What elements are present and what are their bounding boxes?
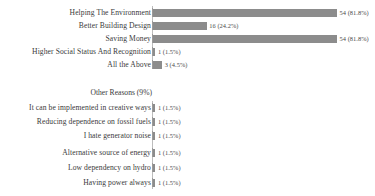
bar-zone: 1 (1.5%) <box>152 176 375 189</box>
table-row: Saving Money 54 (81.8%) <box>0 32 375 45</box>
bar-zone: 1 (1.5%) <box>152 45 375 58</box>
table-row: All the Above 3 (4.5%) <box>0 58 375 71</box>
category-label: Higher Social Status And Recognition <box>0 47 152 56</box>
table-row: Helping The Environment 54 (81.8%) <box>0 6 375 19</box>
category-label: It can be implemented in creative ways <box>0 103 152 112</box>
axis-tick <box>152 117 153 126</box>
bar <box>152 9 337 17</box>
category-label: Saving Money <box>0 34 152 43</box>
bar-zone: 54 (81.8%) <box>152 6 375 19</box>
bar <box>152 22 207 30</box>
bar-zone: 3 (4.5%) <box>152 58 375 71</box>
category-label: Reducing dependence on fossil fuels <box>0 117 152 126</box>
axis-tick <box>152 131 153 140</box>
value-label: 1 (1.5%) <box>155 132 180 140</box>
table-row: Having power always 1 (1.5%) <box>0 176 375 189</box>
axis-tick <box>152 163 153 172</box>
bar-zone: 16 (24.2%) <box>152 19 375 32</box>
value-label: 3 (4.5%) <box>162 61 187 69</box>
bar <box>152 61 162 69</box>
category-label: Alternative source of energy <box>0 148 152 157</box>
bar <box>152 35 337 43</box>
value-label: 1 (1.5%) <box>155 48 180 56</box>
axis-tick <box>152 21 153 30</box>
value-label: 54 (81.8%) <box>337 9 369 17</box>
axis-tick <box>152 8 153 17</box>
section-heading-other-reasons: Other Reasons (9%) <box>0 88 152 97</box>
category-label: Having power always <box>0 178 152 187</box>
value-label: 16 (24.2%) <box>207 22 239 30</box>
value-label: 1 (1.5%) <box>155 149 180 157</box>
axis-tick <box>152 34 153 43</box>
axis-tick <box>152 148 153 157</box>
value-label: 1 (1.5%) <box>155 118 180 126</box>
category-label: Low dependency on hydro <box>0 163 152 172</box>
bar-zone: 1 (1.5%) <box>152 101 375 114</box>
category-label: All the Above <box>0 60 152 69</box>
bar-chart: Helping The Environment 54 (81.8%) Bette… <box>0 0 375 196</box>
axis-tick <box>152 103 153 112</box>
axis-tick <box>152 47 153 56</box>
category-label: Better Building Design <box>0 21 152 30</box>
table-row: Better Building Design 16 (24.2%) <box>0 19 375 32</box>
table-row: Higher Social Status And Recognition 1 (… <box>0 45 375 58</box>
table-row: Low dependency on hydro 1 (1.5%) <box>0 161 375 174</box>
table-row: It can be implemented in creative ways 1… <box>0 101 375 114</box>
table-row: Alternative source of energy 1 (1.5%) <box>0 146 375 159</box>
bar-zone: 1 (1.5%) <box>152 161 375 174</box>
table-row: Reducing dependence on fossil fuels 1 (1… <box>0 115 375 128</box>
value-label: 1 (1.5%) <box>155 104 180 112</box>
table-row: I hate generator noise 1 (1.5%) <box>0 129 375 142</box>
value-label: 1 (1.5%) <box>155 179 180 187</box>
bar-zone: 1 (1.5%) <box>152 146 375 159</box>
category-label: Helping The Environment <box>0 8 152 17</box>
bar-zone: 1 (1.5%) <box>152 115 375 128</box>
bar-zone: 54 (81.8%) <box>152 32 375 45</box>
value-label: 1 (1.5%) <box>155 164 180 172</box>
axis-tick <box>152 178 153 187</box>
axis-tick <box>152 60 153 69</box>
bar-zone: 1 (1.5%) <box>152 129 375 142</box>
category-label: I hate generator noise <box>0 131 152 140</box>
value-label: 54 (81.8%) <box>337 35 369 43</box>
